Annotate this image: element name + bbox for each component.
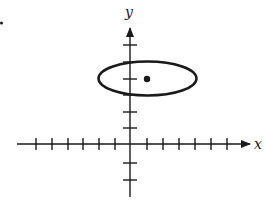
x-axis: x	[17, 136, 262, 152]
y-axis: y	[123, 4, 137, 197]
ellipse-coordinate-diagram: x y	[0, 0, 265, 202]
y-axis-label: y	[124, 4, 134, 20]
ellipse-center-point	[144, 76, 150, 82]
stray-mark	[0, 22, 3, 25]
x-axis-label: x	[254, 136, 262, 152]
